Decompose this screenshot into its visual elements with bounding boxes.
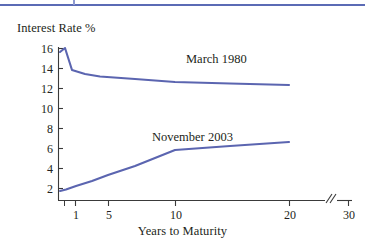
plot-area: [0, 0, 365, 243]
y-tick-label-6: 6: [31, 142, 53, 157]
y-tick-label-2: 2: [31, 182, 53, 197]
x-tick-label-5: 5: [97, 208, 121, 223]
chart-figure: Interest Rate % 16 14 12 10: [0, 0, 365, 243]
series-line-march-1980: [60, 48, 289, 85]
y-tick-label-10: 10: [31, 102, 53, 117]
series-label-november-2003: November 2003: [152, 130, 233, 145]
series-line-november-2003: [60, 142, 289, 191]
y-tick-label-4: 4: [31, 162, 53, 177]
y-tick-label-14: 14: [31, 62, 53, 77]
x-tick-label-1: 1: [64, 208, 88, 223]
y-tick-label-12: 12: [31, 82, 53, 97]
series-label-march-1980: March 1980: [186, 52, 247, 67]
y-tick-label-16: 16: [31, 42, 53, 57]
y-tick-label-8: 8: [31, 122, 53, 137]
x-axis-title: Years to Maturity: [0, 224, 365, 239]
x-tick-label-20: 20: [278, 208, 302, 223]
x-tick-label-10: 10: [164, 208, 188, 223]
x-tick-label-30: 30: [337, 208, 361, 223]
